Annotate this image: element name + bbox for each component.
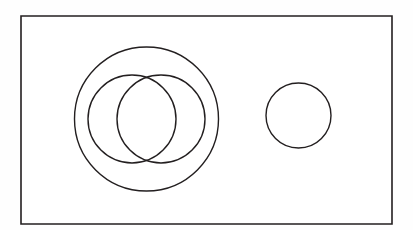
circles-figure (0, 0, 413, 230)
diagram-canvas (0, 0, 413, 230)
bounding-rectangle (21, 16, 392, 224)
